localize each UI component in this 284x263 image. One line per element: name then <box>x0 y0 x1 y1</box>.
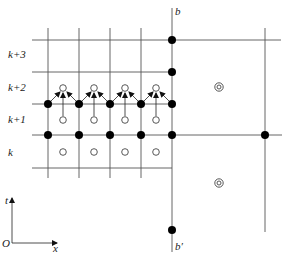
t-axis-label: t <box>5 194 9 206</box>
row-label-k2: k+2 <box>8 81 26 93</box>
solid-node <box>44 131 52 139</box>
row-label-k: k <box>8 146 14 158</box>
open-node <box>153 149 160 156</box>
solid-node <box>168 100 176 108</box>
solid-node <box>75 100 83 108</box>
row-labels: k+3 k+2 k+1 k <box>8 48 26 158</box>
open-nodes <box>60 85 160 156</box>
coordinate-axes: O x t <box>2 194 58 254</box>
solid-node <box>75 131 83 139</box>
open-node <box>153 117 160 124</box>
boundary-label-b-prime: b′ <box>175 240 184 252</box>
open-node <box>122 149 129 156</box>
row-label-k3: k+3 <box>8 48 26 60</box>
solid-node <box>137 131 145 139</box>
open-node <box>60 85 67 92</box>
open-node <box>60 117 67 124</box>
solid-node <box>168 131 176 139</box>
open-node <box>91 117 98 124</box>
solid-node <box>106 100 114 108</box>
open-node <box>122 117 129 124</box>
stencil-diagram: k+3 k+2 k+1 k b b′ O x t <box>0 0 284 263</box>
x-axis-label: x <box>52 242 58 254</box>
open-node <box>91 85 98 92</box>
solid-node <box>168 36 176 44</box>
row-label-k1: k+1 <box>8 113 26 125</box>
open-node <box>122 85 129 92</box>
open-node <box>60 149 67 156</box>
origin-label: O <box>2 237 10 249</box>
solid-node <box>137 100 145 108</box>
solid-node <box>168 226 176 234</box>
vertical-grid-lines <box>48 8 265 252</box>
open-node <box>153 85 160 92</box>
double-circle-inner <box>217 181 221 185</box>
double-circle-inner <box>217 85 221 89</box>
boundary-label-b: b <box>175 5 181 17</box>
solid-node <box>261 131 269 139</box>
solid-node <box>44 100 52 108</box>
solid-node <box>168 68 176 76</box>
open-node <box>91 149 98 156</box>
solid-node <box>106 131 114 139</box>
